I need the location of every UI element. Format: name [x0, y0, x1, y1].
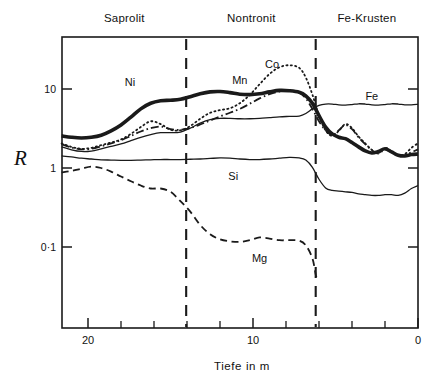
series-label-si: Si: [228, 170, 238, 182]
x-tick-label-2: 0: [415, 334, 421, 346]
y-tick-label-0: 10: [12, 83, 56, 95]
zone-label-fe-krusten: Fe-Krusten: [337, 12, 396, 24]
x-tick-label-1: 10: [247, 334, 259, 346]
y-tick-label-2: 0·1: [12, 241, 56, 253]
x-tick-label-0: 20: [82, 334, 94, 346]
y-axis-title: R: [14, 146, 27, 171]
series-label-fe: Fe: [365, 90, 378, 102]
series-label-co: Co: [265, 58, 279, 70]
chart-figure: SaprolitNontronitFe-Krusten1010·1R20100T…: [0, 0, 440, 386]
series-label-mn: Mn: [232, 74, 247, 86]
series-label-ni: Ni: [125, 76, 135, 88]
chart-canvas: [0, 0, 440, 386]
x-axis-title: Tiefe in m: [214, 360, 270, 372]
zone-label-saprolit: Saprolit: [104, 12, 145, 24]
series-label-mg: Mg: [252, 252, 267, 264]
zone-label-nontronit: Nontronit: [227, 12, 275, 24]
